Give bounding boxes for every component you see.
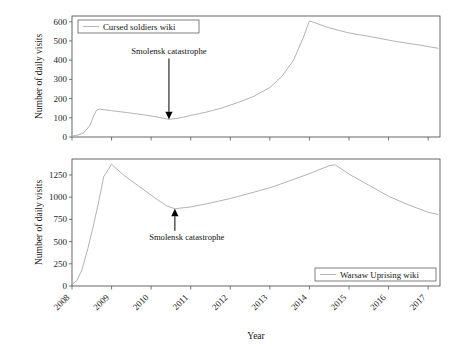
x-tick-label: 2012 (210, 292, 230, 312)
y-tick-label: 1000 (49, 192, 68, 202)
data-line-cursed-soldiers-wiki (72, 21, 438, 136)
x-tick-label: 2008 (52, 292, 72, 312)
x-tick-label: 2013 (249, 292, 269, 312)
y-tick-label: 750 (54, 214, 68, 224)
annotation-label: Smolensk catastrophe (149, 232, 224, 242)
legend-label: Warsaw Uprising wiki (340, 270, 419, 280)
y-tick-label: 100 (54, 113, 68, 123)
annotation-arrowhead (165, 112, 172, 120)
y-tick-label: 1250 (49, 170, 68, 180)
y-tick-label: 0 (63, 281, 68, 291)
annotation-arrowhead (171, 209, 178, 217)
legend-bottom[interactable]: Warsaw Uprising wiki (315, 268, 436, 281)
annotation-label: Smolensk catastrophe (131, 46, 206, 56)
figure-container: 0100200300400500600Number of daily visit… (0, 0, 451, 350)
wikipedia-visits-dual-line-chart: 0100200300400500600Number of daily visit… (0, 0, 451, 350)
legend-label: Cursed soldiers wiki (103, 22, 176, 32)
annotation-smolensk-bottom: Smolensk catastrophe (149, 209, 224, 242)
y-tick-label: 200 (54, 94, 68, 104)
y-axis-title-bottom: Number of daily visits (34, 180, 44, 266)
y-tick-label: 500 (54, 237, 68, 247)
panel-top: 0100200300400500600Number of daily visit… (34, 16, 440, 142)
panel-bottom: 025050075010001250Number of daily visits… (34, 159, 440, 291)
y-axis-title-top: Number of daily visits (34, 34, 44, 120)
y-tick-label: 300 (54, 74, 68, 84)
legend-top[interactable]: Cursed soldiers wiki (78, 20, 199, 33)
y-tick-label: 500 (54, 36, 68, 46)
y-tick-label: 0 (63, 132, 68, 142)
data-line-warsaw-uprising-wiki (72, 164, 438, 284)
x-tick-label: 2011 (171, 292, 191, 312)
plot-frame-top (72, 16, 440, 137)
y-tick-label: 600 (54, 17, 68, 27)
x-axis-title: Year (247, 331, 265, 341)
x-tick-label: 2009 (91, 292, 111, 312)
x-tick-label: 2014 (289, 292, 309, 312)
x-tick-label: 2015 (329, 292, 349, 312)
x-tick-label: 2016 (368, 292, 388, 312)
x-tick-label: 2017 (408, 292, 428, 312)
annotation-smolensk-top: Smolensk catastrophe (131, 46, 206, 119)
x-tick-label: 2010 (131, 292, 151, 312)
x-axis-tick-labels: 2008200920102011201220132014201520162017… (52, 292, 428, 341)
y-tick-label: 250 (54, 259, 68, 269)
y-tick-label: 400 (54, 55, 68, 65)
